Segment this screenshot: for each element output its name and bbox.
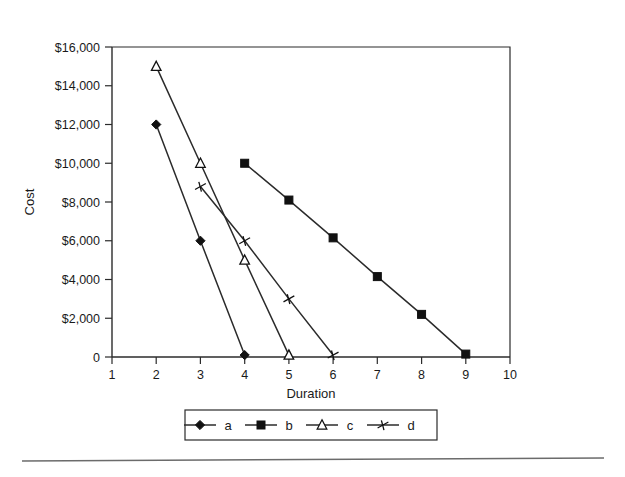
x-tick-label-8: 8 bbox=[418, 368, 425, 382]
y-tick-label-12000: $12,000 bbox=[55, 118, 100, 132]
series-line-d bbox=[200, 187, 333, 356]
legend: abcd bbox=[184, 410, 437, 440]
data-point-c-2 bbox=[240, 255, 250, 264]
footer-divider bbox=[22, 458, 604, 461]
data-point-d-1 bbox=[239, 236, 250, 246]
x-tick-label-1: 1 bbox=[109, 368, 116, 382]
legend-label-d: d bbox=[407, 418, 414, 433]
y-tick-label-0: 0 bbox=[93, 351, 100, 365]
x-axis-tick-labels: 1 2 3 4 5 6 7 8 9 10 bbox=[109, 368, 517, 382]
legend-label-c: c bbox=[347, 418, 354, 433]
data-point-b-0 bbox=[241, 159, 249, 167]
x-axis: 1 2 3 4 5 6 7 8 9 10 Duration bbox=[109, 357, 517, 401]
chart-figure: 0 $2,000 $4,000 $6,000 $8,000 $10,000 $1… bbox=[0, 0, 625, 477]
x-tick-label-7: 7 bbox=[374, 368, 381, 382]
x-axis-title: Duration bbox=[286, 386, 335, 401]
x-tick-label-5: 5 bbox=[285, 368, 292, 382]
data-point-c-3 bbox=[284, 350, 294, 359]
y-tick-label-16000: $16,000 bbox=[55, 41, 100, 55]
series-b bbox=[241, 159, 470, 358]
data-point-c-1 bbox=[196, 158, 206, 167]
data-point-d-3 bbox=[328, 350, 339, 360]
cost-duration-line-chart: 0 $2,000 $4,000 $6,000 $8,000 $10,000 $1… bbox=[0, 0, 625, 477]
series-line-c bbox=[156, 66, 289, 355]
x-tick-label-2: 2 bbox=[153, 368, 160, 382]
data-point-b-3 bbox=[373, 273, 381, 281]
x-tick-label-9: 9 bbox=[462, 368, 469, 382]
plot-frame bbox=[112, 47, 510, 357]
series-line-b bbox=[245, 163, 466, 354]
y-axis-ticks bbox=[105, 47, 112, 357]
data-point-b-1 bbox=[285, 196, 293, 204]
x-axis-ticks bbox=[112, 357, 510, 364]
x-tick-label-6: 6 bbox=[330, 368, 337, 382]
legend-marker-b bbox=[257, 421, 265, 429]
legend-label-a: a bbox=[224, 418, 232, 433]
series-c bbox=[151, 61, 293, 359]
x-tick-label-4: 4 bbox=[241, 368, 248, 382]
data-point-a-2 bbox=[240, 350, 249, 359]
y-axis-title: Cost bbox=[22, 188, 37, 215]
data-point-a-0 bbox=[152, 120, 161, 129]
y-tick-label-10000: $10,000 bbox=[55, 157, 100, 171]
data-point-a-1 bbox=[196, 236, 205, 245]
y-tick-label-14000: $14,000 bbox=[55, 79, 100, 93]
y-tick-label-6000: $6,000 bbox=[62, 234, 100, 248]
y-tick-label-2000: $2,000 bbox=[62, 312, 100, 326]
data-point-b-5 bbox=[462, 350, 470, 358]
y-axis-tick-labels: 0 $2,000 $4,000 $6,000 $8,000 $10,000 $1… bbox=[55, 41, 100, 365]
x-tick-label-10: 10 bbox=[503, 368, 517, 382]
y-tick-label-8000: $8,000 bbox=[62, 196, 100, 210]
data-point-b-2 bbox=[329, 234, 337, 242]
data-point-c-0 bbox=[151, 61, 161, 70]
y-axis: 0 $2,000 $4,000 $6,000 $8,000 $10,000 $1… bbox=[22, 41, 112, 365]
plot-frame-border bbox=[112, 47, 510, 357]
series-layer bbox=[151, 61, 469, 360]
legend-label-b: b bbox=[285, 418, 292, 433]
data-point-b-4 bbox=[418, 310, 426, 318]
series-d bbox=[195, 182, 338, 360]
x-tick-label-3: 3 bbox=[197, 368, 204, 382]
y-tick-label-4000: $4,000 bbox=[62, 273, 100, 287]
